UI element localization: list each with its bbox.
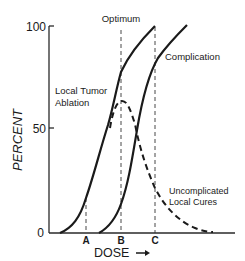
- annotation-ablation-line2: Ablation: [55, 97, 89, 108]
- annotation-ablation-line1: Local Tumor: [55, 85, 107, 96]
- annotation-complication: Complication: [165, 51, 220, 62]
- y-tick-100: 100: [26, 20, 46, 34]
- reference-lines: [86, 27, 155, 233]
- series-uncomplicated-local-cures: [110, 101, 213, 232]
- y-tick-0: 0: [37, 226, 44, 240]
- annotation-cures-line1: Uncomplicated: [169, 186, 229, 196]
- annotation-cures-line2: Local Cures: [169, 197, 218, 207]
- arrow-right-icon: [136, 250, 150, 256]
- y-tick-50: 50: [33, 122, 47, 136]
- annotation-optimum: Optimum: [102, 13, 141, 24]
- x-tick-b: B: [117, 235, 124, 246]
- y-axis: [49, 26, 54, 233]
- x-tick-a: A: [82, 235, 89, 246]
- series-local-tumor-ablation: [60, 26, 155, 233]
- x-axis-label: DOSE: [94, 246, 129, 260]
- x-tick-c: C: [151, 235, 158, 246]
- y-axis-label: PERCENT: [10, 108, 25, 171]
- dose-response-chart: 100 50 0 PERCENT A B C DOSE Optimum Loca…: [0, 0, 245, 261]
